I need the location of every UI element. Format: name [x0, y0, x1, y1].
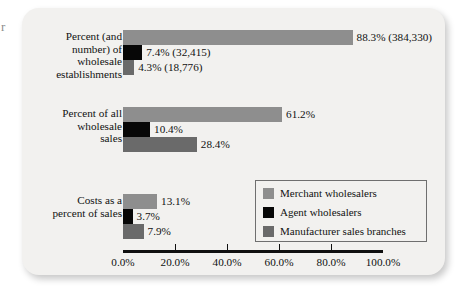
bar-value-label: 7.4% (32,415)	[146, 45, 210, 60]
figure-card: Percent (andnumber) ofwholesaleestablish…	[22, 8, 445, 275]
bar-value-label: 61.2%	[286, 107, 315, 122]
x-axis-tick-label: 60.0%	[253, 256, 305, 268]
legend-label-merchant: Merchant wholesalers	[280, 187, 377, 199]
bar-manufacturer	[123, 224, 144, 239]
x-axis-tick-label: 100.0%	[357, 256, 409, 268]
x-axis-tick	[175, 244, 176, 250]
x-axis-line	[123, 250, 383, 253]
x-axis-tick	[331, 244, 332, 250]
category-label-line: wholesale	[0, 120, 122, 133]
bar-manufacturer	[123, 60, 134, 75]
category-label-line: establishments	[0, 68, 122, 81]
legend-swatch-merchant-icon	[263, 188, 274, 199]
category-label-line: wholesale	[0, 55, 122, 68]
x-axis-tick-label: 0.0%	[97, 256, 149, 268]
category-label-line: percent of sales	[0, 207, 122, 220]
bar-value-label: 3.7%	[137, 209, 160, 224]
bar-agent	[123, 209, 133, 224]
chart-legend: Merchant wholesalers Agent wholesalers M…	[255, 180, 427, 242]
bar-value-label: 10.4%	[154, 122, 183, 137]
bar-merchant	[123, 107, 282, 122]
x-axis-tick	[227, 244, 228, 250]
bar-value-label: 13.1%	[161, 194, 190, 209]
legend-item-manufacturer-branches: Manufacturer sales branches	[263, 223, 406, 239]
category-label-line: Costs as a	[0, 194, 122, 207]
category-label-costs: Costs as apercent of sales	[0, 194, 122, 219]
bar-value-label: 4.3% (18,776)	[138, 60, 202, 75]
category-label-sales: Percent of allwholesalesales	[0, 107, 122, 145]
legend-label-manufacturer: Manufacturer sales branches	[280, 225, 406, 237]
x-axis-tick-label: 80.0%	[305, 256, 357, 268]
chart-plot-area: Percent (andnumber) ofwholesaleestablish…	[22, 8, 445, 275]
bar-agent	[123, 122, 150, 137]
legend-swatch-agent-icon	[263, 207, 274, 218]
bar-value-label: 28.4%	[201, 137, 230, 152]
bar-merchant	[123, 30, 353, 45]
bar-agent	[123, 45, 142, 60]
x-axis-tick-label: 40.0%	[201, 256, 253, 268]
category-label-establishments: Percent (andnumber) ofwholesaleestablish…	[0, 30, 122, 80]
bar-value-label: 88.3% (384,330)	[357, 30, 433, 45]
category-label-line: Percent of all	[0, 107, 122, 120]
category-label-line: Percent (and	[0, 30, 122, 43]
category-label-line: number) of	[0, 43, 122, 56]
category-label-line: sales	[0, 132, 122, 145]
legend-swatch-manufacturer-icon	[263, 226, 274, 237]
x-axis-tick	[279, 244, 280, 250]
bar-manufacturer	[123, 137, 197, 152]
legend-label-agent: Agent wholesalers	[280, 206, 362, 218]
bar-merchant	[123, 194, 157, 209]
x-axis-tick-label: 20.0%	[149, 256, 201, 268]
legend-item-merchant-wholesalers: Merchant wholesalers	[263, 185, 377, 201]
legend-item-agent-wholesalers: Agent wholesalers	[263, 204, 362, 220]
bar-value-label: 7.9%	[148, 224, 171, 239]
